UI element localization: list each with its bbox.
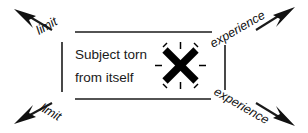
label-limit-bottom-left: limit	[38, 100, 65, 123]
burst-tick-upper-right	[194, 43, 198, 47]
center-text-line-2: from itself	[75, 70, 134, 85]
label-limit-top-left: limit	[34, 14, 61, 37]
diagram-canvas: limit limit experience experience Subjec…	[0, 0, 308, 133]
burst-tick-upper-left	[163, 43, 167, 47]
burst-tick-lower-left	[163, 84, 167, 88]
center-text-line-1: Subject torn	[75, 47, 147, 62]
subject-torn-diagram: limit limit experience experience Subjec…	[0, 0, 308, 133]
burst-tick-lower-right	[194, 84, 198, 88]
x-burst-icon	[155, 42, 206, 89]
